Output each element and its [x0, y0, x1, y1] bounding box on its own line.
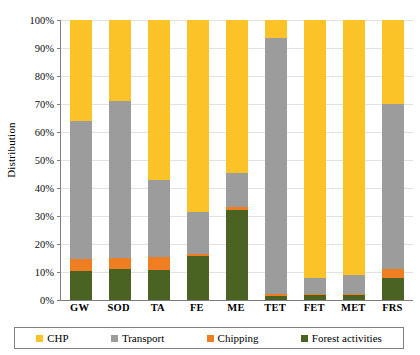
y-tick-label: 100% — [30, 15, 55, 26]
y-tick-label: 50% — [35, 155, 54, 166]
bar-segment — [226, 20, 248, 173]
bar-slot — [374, 20, 413, 300]
y-tick-label: 60% — [35, 127, 54, 138]
bar-segment — [70, 271, 92, 300]
bar-segment — [148, 20, 170, 180]
stacked-bar[interactable] — [70, 20, 92, 300]
bar-segment — [70, 259, 92, 271]
legend-item[interactable]: Transport — [111, 332, 164, 344]
bar-segment — [382, 278, 404, 300]
y-tick-label: 90% — [35, 43, 54, 54]
legend-label: Transport — [122, 332, 164, 344]
bar-slot — [217, 20, 256, 300]
bar-slot — [296, 20, 335, 300]
legend-swatch-icon — [207, 335, 214, 342]
x-tick-label: TA — [138, 302, 177, 313]
stacked-bar[interactable] — [382, 20, 404, 300]
stacked-bar[interactable] — [226, 20, 248, 300]
x-tick-label: SOD — [99, 302, 138, 313]
plot-area — [60, 20, 413, 301]
bar-segment — [226, 173, 248, 208]
y-axis-tick-labels: 0%10%20%30%40%50%60%70%80%90%100% — [18, 14, 58, 306]
bar-segment — [226, 210, 248, 300]
bar-segment — [70, 121, 92, 259]
bar-slot — [257, 20, 296, 300]
bar-slot — [61, 20, 100, 300]
legend-label: CHP — [47, 332, 68, 344]
y-tick-label: 20% — [35, 239, 54, 250]
legend-item[interactable]: Chipping — [207, 332, 259, 344]
bar-segment — [70, 20, 92, 121]
bar-segment — [304, 20, 326, 278]
plot-wrapper: Distribution 0%10%20%30%40%50%60%70%80%9… — [0, 0, 420, 322]
bar-slot — [100, 20, 139, 300]
bar-segment — [304, 295, 326, 300]
bar-segment — [265, 20, 287, 38]
bar-slot — [178, 20, 217, 300]
bar-segment — [265, 38, 287, 294]
legend-swatch-icon — [301, 335, 308, 342]
bar-segment — [382, 104, 404, 269]
legend-swatch-icon — [111, 335, 118, 342]
bar-segment — [187, 20, 209, 212]
legend-item[interactable]: CHP — [36, 332, 68, 344]
y-tick-label: 0% — [40, 295, 54, 306]
bar-segment — [382, 20, 404, 104]
stacked-bar[interactable] — [148, 20, 170, 300]
bar-segment — [343, 20, 365, 275]
bar-segment — [265, 296, 287, 300]
y-axis-title-text: Distribution — [5, 122, 17, 178]
stacked-bar[interactable] — [187, 20, 209, 300]
bar-group — [61, 20, 413, 300]
bar-segment — [109, 20, 131, 101]
bar-segment — [109, 258, 131, 269]
stacked-bar[interactable] — [109, 20, 131, 300]
x-tick-label: TET — [256, 302, 295, 313]
legend-label: Forest activities — [312, 332, 382, 344]
x-tick-label: FRS — [373, 302, 412, 313]
bar-segment — [343, 275, 365, 294]
stacked-bar[interactable] — [265, 20, 287, 300]
stacked-bar[interactable] — [343, 20, 365, 300]
bar-segment — [187, 256, 209, 300]
bar-segment — [187, 212, 209, 255]
y-tick-mark — [57, 300, 61, 301]
bar-segment — [304, 278, 326, 294]
bar-segment — [109, 101, 131, 258]
bar-segment — [148, 270, 170, 300]
bar-segment — [382, 269, 404, 278]
y-tick-label: 70% — [35, 99, 54, 110]
bar-segment — [343, 295, 365, 300]
stacked-bar[interactable] — [304, 20, 326, 300]
y-tick-label: 80% — [35, 71, 54, 82]
x-tick-label: GW — [60, 302, 99, 313]
x-tick-label: FE — [177, 302, 216, 313]
y-tick-label: 10% — [35, 267, 54, 278]
chart-container: Distribution 0%10%20%30%40%50%60%70%80%9… — [0, 0, 420, 355]
legend-item[interactable]: Forest activities — [301, 332, 382, 344]
x-axis-tick-labels: GWSODTAFEMETETFETMETFRS — [60, 302, 412, 320]
chart-legend: CHPTransportChippingForest activities — [14, 327, 404, 349]
legend-label: Chipping — [218, 332, 259, 344]
x-tick-label: MET — [334, 302, 373, 313]
bar-segment — [148, 180, 170, 257]
bar-segment — [148, 257, 170, 270]
y-tick-label: 30% — [35, 211, 54, 222]
x-tick-label: ME — [216, 302, 255, 313]
y-tick-label: 40% — [35, 183, 54, 194]
legend-swatch-icon — [36, 335, 43, 342]
bar-slot — [139, 20, 178, 300]
bar-slot — [335, 20, 374, 300]
bar-segment — [109, 269, 131, 300]
x-tick-label: FET — [295, 302, 334, 313]
